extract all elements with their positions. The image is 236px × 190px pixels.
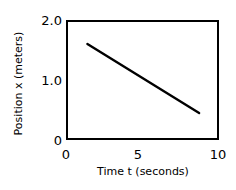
x-tick-label-10: 10 [198, 148, 236, 161]
data-line-position-vs-time [87, 44, 199, 113]
x-tick-label-5: 5 [118, 148, 158, 161]
x-tick-label-0: 0 [46, 148, 86, 161]
x-axis-label: Time t (seconds) [63, 166, 223, 177]
chart-figure: 2.0 1.0 0 Position x (meters) 0 5 10 Tim… [0, 0, 236, 190]
plot-svg [0, 0, 236, 190]
